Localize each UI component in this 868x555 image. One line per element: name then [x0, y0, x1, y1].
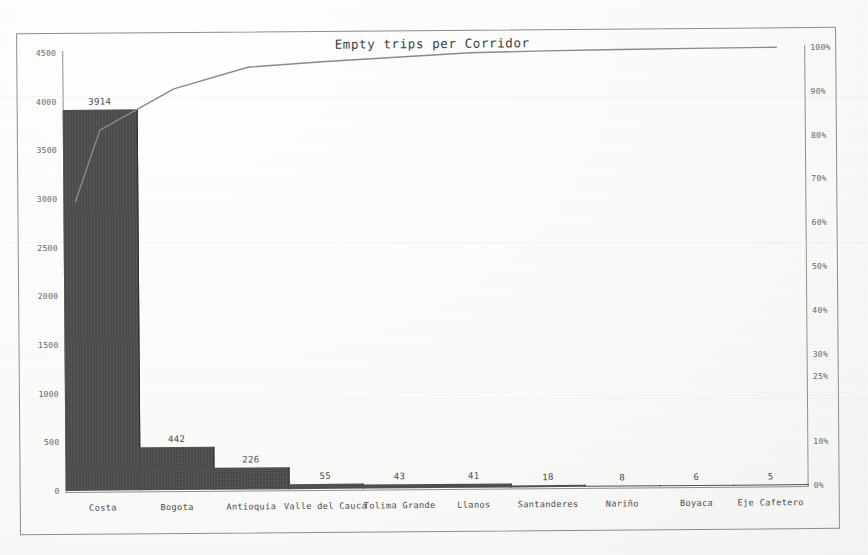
y-axis-tick-label: 3500 — [36, 145, 57, 155]
bar — [140, 447, 216, 491]
bar-value-label: 55 — [319, 470, 331, 480]
secondary-axis-tick-label: 25% — [813, 370, 828, 380]
bar — [362, 484, 437, 489]
secondary-axis-tick-label: 0% — [814, 480, 824, 490]
plot-area — [62, 47, 807, 491]
bar — [63, 109, 141, 491]
bar-value-label: 18 — [542, 472, 554, 482]
bar-value-label: 442 — [168, 434, 185, 444]
secondary-axis-tick-label: 60% — [812, 217, 827, 227]
secondary-axis-tick-label: 40% — [812, 305, 827, 315]
bar-value-label: 41 — [468, 471, 480, 481]
bar — [214, 467, 289, 490]
y-axis-tick-label: 3000 — [37, 194, 58, 204]
y-axis-tick-label: 1500 — [38, 340, 59, 350]
y-axis-left-labels: 050010001500200025003000350040004500 — [0, 3, 60, 555]
x-axis-category-label: Tolima Grande — [364, 500, 436, 511]
y-axis-tick-label: 4500 — [36, 48, 57, 58]
chart-figure: Empty trips per Corridor 050010001500200… — [0, 0, 868, 555]
secondary-axis-tick-label: 30% — [813, 349, 828, 359]
bar — [288, 483, 363, 489]
secondary-axis-tick-label: 50% — [812, 261, 827, 271]
secondary-axis-tick-label: 70% — [811, 173, 826, 183]
bar-value-label: 3914 — [88, 97, 111, 107]
bar — [437, 483, 512, 488]
bar-value-label: 8 — [619, 472, 625, 482]
bar-value-label: 6 — [693, 472, 699, 482]
x-axis-category-label: Bogota — [160, 502, 193, 512]
secondary-axis-tick-label: 90% — [811, 86, 826, 96]
y-axis-tick-label: 1000 — [38, 389, 59, 399]
y-axis-tick-label: 500 — [44, 437, 59, 447]
secondary-axis-tick-label: 80% — [811, 130, 826, 140]
y-axis-tick-label: 2500 — [37, 243, 58, 253]
scanned-page-background: Empty trips per Corridor 050010001500200… — [0, 0, 868, 555]
x-axis-category-label: Llanos — [457, 500, 490, 510]
x-axis-category-label: Valle del Cauca — [284, 501, 367, 512]
y-axis-tick-label: 2000 — [38, 291, 59, 301]
y-axis-tick-label: 0 — [54, 486, 59, 496]
bar-value-label: 226 — [242, 454, 259, 464]
x-axis-category-label: Eje Cafetero — [737, 497, 803, 508]
x-axis-category-label: Santanderes — [518, 499, 579, 509]
x-axis-category-label: Nariño — [606, 498, 639, 508]
y-axis-tick-label: 4000 — [36, 97, 57, 107]
x-axis-category-label: Antioquia — [226, 501, 276, 511]
bar-value-label: 43 — [394, 471, 406, 481]
y-axis-right-labels: 0%10%25%30%40%50%60%70%80%90%100% — [810, 0, 860, 552]
x-axis-category-label: Costa — [89, 502, 117, 512]
x-axis-category-label: Boyaca — [680, 498, 713, 508]
x-axis-category-labels: CostaBogotaAntioquiaValle del CaucaTolim… — [0, 0, 866, 3]
secondary-axis-tick-label: 10% — [813, 436, 828, 446]
bar-value-label: 5 — [768, 471, 774, 481]
secondary-axis-tick-label: 100% — [810, 42, 831, 52]
